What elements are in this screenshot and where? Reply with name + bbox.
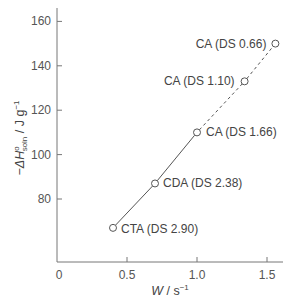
data-point-label: CDA (DS 2.38) xyxy=(163,176,242,190)
y-tick-label: 160 xyxy=(31,14,51,28)
data-point-marker xyxy=(152,180,159,187)
chart-canvas: 8010012014016000.51.01.5 CTA (DS 2.90)CD… xyxy=(0,0,295,304)
solid-trend-segment xyxy=(157,135,195,181)
dashed-trend-segment xyxy=(247,46,273,78)
data-point-marker xyxy=(110,224,117,231)
x-tick-label: 0 xyxy=(56,268,63,282)
data-point-label: CA (DS 0.66) xyxy=(196,37,267,51)
solid-trend-segment xyxy=(115,186,152,225)
x-axis-title: W / s−1 xyxy=(151,283,189,298)
dashed-trend-segment xyxy=(199,84,242,130)
y-axis-title: −ΔHosoln / J g−1 xyxy=(12,100,29,176)
y-tick-label: 120 xyxy=(31,103,51,117)
data-point-label: CA (DS 1.66) xyxy=(206,125,277,139)
point-labels: CTA (DS 2.90)CDA (DS 2.38)CA (DS 1.66)CA… xyxy=(121,37,277,236)
y-tick-label: 140 xyxy=(31,59,51,73)
data-point-marker xyxy=(194,129,201,136)
data-point-marker xyxy=(241,78,248,85)
y-tick-label: 100 xyxy=(31,148,51,162)
x-tick-label: 0.5 xyxy=(119,268,136,282)
x-tick-label: 1.0 xyxy=(189,268,206,282)
y-tick-label: 80 xyxy=(38,192,52,206)
data-point-label: CTA (DS 2.90) xyxy=(121,222,198,236)
data-point-marker xyxy=(272,40,279,47)
data-point-label: CA (DS 1.10) xyxy=(164,74,235,88)
x-tick-label: 1.5 xyxy=(259,268,276,282)
